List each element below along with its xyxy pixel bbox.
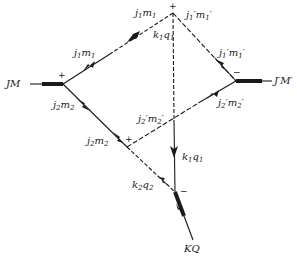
label-j1pm1p-right: j1′m1′	[219, 48, 245, 60]
label-j2pm2p-mid: j2′m2′	[138, 114, 164, 126]
diagram-graph	[0, 0, 297, 260]
label-j2m2-left: j2m2	[53, 100, 75, 112]
arrow-j2m2-mid-icon	[113, 132, 123, 143]
label-k1q1-top: k1q1	[153, 30, 174, 42]
label-j1m1-top: j1m1	[135, 8, 157, 20]
label-k1q1-bottom: k1q1	[182, 152, 203, 164]
vertex-sign-bottom: −	[180, 187, 188, 196]
label-kq: KQ	[184, 244, 200, 254]
vertex-sign-middle: +	[125, 135, 133, 144]
label-j1m1-left: j1m1	[74, 48, 96, 60]
vertex-sign-left: +	[58, 71, 66, 80]
label-k2q2: k2q2	[132, 180, 153, 192]
label-jm: JM	[6, 79, 20, 89]
arrow-j2m2-left-icon	[78, 100, 90, 111]
vertex-sign-right: −	[233, 68, 241, 77]
kq-external-line	[184, 216, 193, 240]
label-j1pm1p-top: j1′m1′	[186, 10, 212, 22]
vertex-sign-top: +	[169, 2, 177, 11]
label-j2pm2p-right: j2′m2′	[218, 98, 244, 110]
coupling-diagram: JM J′M′ KQ j1m1 j1m1 j1′m1′ j1′m1′ k1q1 …	[0, 0, 297, 260]
label-jpmp: J′M′	[274, 76, 293, 86]
label-j2m2-mid: j2m2	[87, 136, 109, 148]
